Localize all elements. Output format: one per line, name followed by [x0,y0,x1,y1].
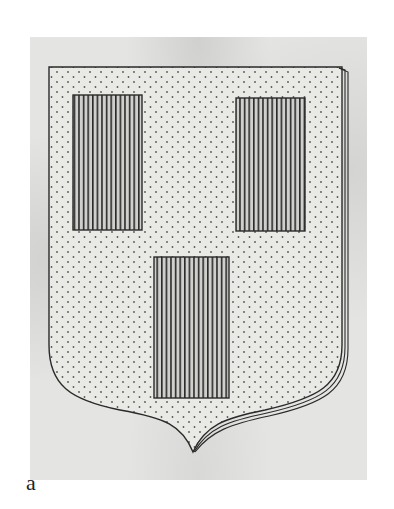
left-charge [73,95,142,230]
figure-label: a [26,470,36,496]
center-charge [154,257,229,398]
right-charge [236,98,305,231]
shield-illustration [0,0,394,509]
